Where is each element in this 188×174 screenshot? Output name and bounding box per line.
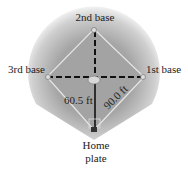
- second-base-label: 2nd base: [76, 11, 115, 23]
- third-base-marker: [46, 75, 51, 80]
- pitch-distance-label: 60.5 ft: [64, 94, 93, 106]
- second-base-marker: [92, 28, 97, 33]
- home-plate-label-line1: Home: [83, 139, 110, 151]
- third-base-label: 3rd base: [8, 63, 45, 75]
- home-plate-label-line2: plate: [85, 152, 106, 164]
- baseball-diamond-diagram: 2nd base 3rd base 1st base 60.5 ft 90.0 …: [0, 0, 188, 174]
- home-plate-marker: [91, 127, 97, 132]
- first-base-marker: [141, 75, 146, 80]
- pitchers-mound: [88, 76, 100, 84]
- first-base-label: 1st base: [146, 63, 181, 75]
